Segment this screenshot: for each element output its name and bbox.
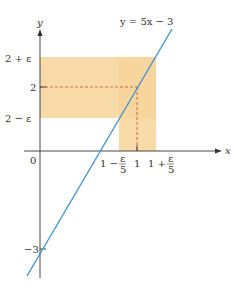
x-tick-label-1-minus-delta: 1 −: [100, 158, 118, 169]
x-axis-label: x: [225, 145, 231, 156]
y-tick-label-2-plus-eps: 2 + ε: [5, 53, 31, 64]
frac-num: ε: [120, 153, 125, 164]
y-axis-arrow-icon: [38, 29, 43, 36]
frac-den: 5: [120, 164, 126, 175]
equation-label: y = 5x − 3: [119, 16, 174, 27]
x-delta-band: [119, 57, 156, 151]
x-tick-label-1: 1: [134, 158, 140, 169]
epsilon-delta-diagram: y x 0 y = 5x − 3 2 + ε 2 2 − ε −3 1 − ε …: [0, 0, 237, 290]
x-axis-arrow-icon: [215, 149, 222, 154]
x-tick-label-1-plus-delta: 1 +: [148, 158, 166, 169]
frac-num: ε: [168, 153, 173, 164]
origin-label: 0: [30, 155, 36, 166]
y-tick-label-minus-3: −3: [24, 244, 39, 255]
y-tick-label-2-minus-eps: 2 − ε: [5, 113, 31, 124]
frac-den: 5: [168, 164, 174, 175]
y-tick-label-2: 2: [30, 82, 36, 93]
y-axis-label: y: [36, 17, 43, 28]
